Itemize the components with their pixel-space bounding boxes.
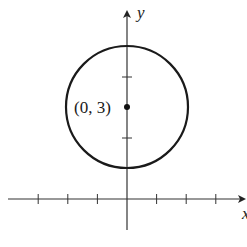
coordinate-plane-diagram: (0, 3) y x <box>0 0 247 247</box>
center-point <box>124 104 130 110</box>
x-axis-label: x <box>241 204 247 223</box>
y-axis-label: y <box>135 3 145 22</box>
center-point-label: (0, 3) <box>74 98 111 117</box>
